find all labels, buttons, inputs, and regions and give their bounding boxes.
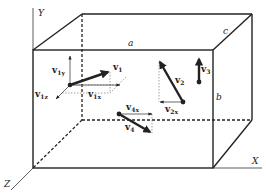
- v1x-label: v1x: [87, 89, 101, 100]
- hidden-edges: [33, 14, 252, 168]
- v4x-label: v4x: [125, 102, 139, 113]
- v1y-label: v1y: [51, 65, 65, 77]
- v3-label: v3: [200, 64, 210, 75]
- y-axis-label: Y: [38, 8, 45, 18]
- edge-label-b: b: [216, 92, 222, 102]
- v1-label: v1: [112, 62, 122, 73]
- z-axis-label: Z: [3, 179, 11, 189]
- z-axis: [11, 168, 33, 190]
- v1-arrow: [70, 72, 108, 85]
- v2x-label: v2x: [164, 104, 178, 115]
- vector-v2: v2 v2x: [159, 62, 185, 115]
- vector-v3: v3: [197, 59, 211, 84]
- edge-label-a: a: [128, 38, 133, 48]
- vector-v4: v4x v4: [117, 102, 152, 133]
- bottom-right-edge: [213, 120, 252, 168]
- top-right-edge: [213, 14, 252, 50]
- box-vector-diagram: Y Z X a c b v1 v1y v1x v1z: [0, 0, 266, 196]
- top-left-edge: [33, 14, 82, 50]
- front-face: [33, 50, 213, 168]
- box: [33, 14, 252, 168]
- v4-label: v4: [124, 122, 134, 133]
- v2-label: v2: [174, 75, 184, 86]
- edge-label-c: c: [223, 26, 228, 36]
- vector-v1: v1 v1y v1x v1z: [34, 56, 126, 100]
- v4-arrow: [119, 114, 150, 132]
- v1z-label: v1z: [34, 89, 48, 100]
- x-axis-label: X: [251, 156, 259, 166]
- v1z-arrow: [56, 85, 70, 99]
